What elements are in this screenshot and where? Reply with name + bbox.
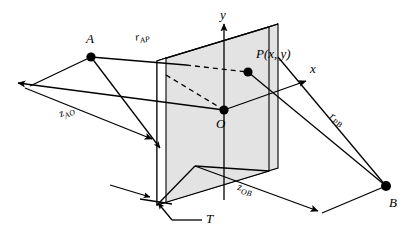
axis-label-x: x xyxy=(310,62,316,75)
point-marker-A xyxy=(86,52,95,61)
point-marker-O xyxy=(219,105,228,114)
dimension-label-r-ap: rAP xyxy=(134,29,151,46)
dimension-subscript-r-ap: AP xyxy=(139,34,151,45)
point-marker-P xyxy=(243,67,252,76)
point-label-a: A xyxy=(86,32,94,45)
plate-front-face xyxy=(157,27,269,205)
point-marker-B xyxy=(381,181,391,191)
dimension-label-thickness: T xyxy=(206,212,213,225)
point-label-b: B xyxy=(389,196,397,209)
point-label-p: P(x, y) xyxy=(256,47,291,60)
dim-zao-upper-leg xyxy=(30,57,91,86)
dimension-label-z-ob: zOB xyxy=(236,181,254,198)
plate-geometry-figure: A P(x, y) O B y x rAP zAO rPB zOB T xyxy=(0,0,412,231)
dim-zao-line xyxy=(25,88,152,139)
axis-label-y: y xyxy=(220,8,226,21)
point-label-o: O xyxy=(216,117,225,130)
ray-a-to-plate xyxy=(91,57,160,148)
dim-zob-lower-leg xyxy=(322,186,386,213)
